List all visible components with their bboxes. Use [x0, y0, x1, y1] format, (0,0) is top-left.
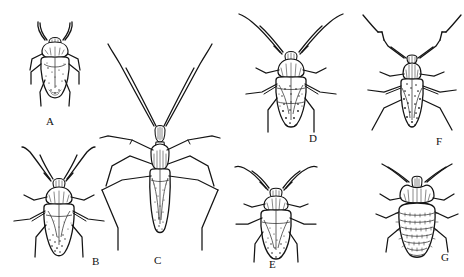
figure-a-shield-bug	[18, 14, 92, 114]
figure-label-c: C	[154, 255, 162, 266]
figure-label-f: F	[436, 136, 442, 147]
figure-label-b: B	[92, 256, 100, 267]
figure-e-oval-bug	[230, 152, 322, 266]
figure-c-assassin-bug	[100, 38, 220, 253]
figure-g-bed-bug	[374, 156, 462, 266]
figure-d-mottled-plant-bug	[238, 10, 344, 138]
figure-b-plant-bug	[10, 145, 110, 267]
figure-label-e: E	[269, 259, 276, 270]
figure-label-d: D	[309, 133, 317, 144]
figure-label-g: G	[441, 252, 449, 263]
illustration-plate: A	[0, 0, 464, 277]
figure-label-a: A	[46, 116, 54, 127]
figure-f-elbowed-antennae-bug	[362, 12, 462, 138]
